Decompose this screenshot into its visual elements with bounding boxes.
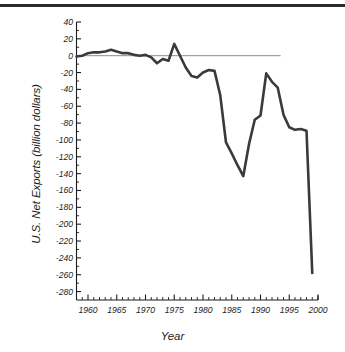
x-tick-label: 1975 [165, 305, 184, 315]
y-tick-label: -60 [61, 101, 74, 111]
y-tick-label: -20 [61, 68, 74, 78]
y-tick-label: -160 [56, 185, 73, 195]
y-tick-label: 40 [63, 17, 73, 27]
x-axis-title: Year [0, 330, 345, 342]
x-tick-label: 1985 [222, 305, 241, 315]
net-exports-figure: 40200-20-40-60-80-100-120-140-160-180-20… [0, 0, 345, 352]
y-tick-label: 20 [62, 34, 73, 44]
y-tick-label: 0 [68, 51, 73, 61]
y-tick-label: -80 [61, 118, 74, 128]
x-tick-label: 1970 [136, 305, 155, 315]
chart-plot-area: 40200-20-40-60-80-100-120-140-160-180-20… [0, 0, 345, 352]
x-tick-label: 1990 [251, 305, 270, 315]
x-tick-label: 2000 [307, 305, 327, 315]
x-tick-label: 1980 [193, 305, 212, 315]
x-tick-label: 1960 [78, 305, 97, 315]
y-tick-label: -280 [56, 287, 73, 297]
y-axis-title: U.S. Net Exports (billion dollars) [30, 44, 42, 284]
y-tick-label: -40 [61, 84, 74, 94]
y-tick-label: -180 [56, 202, 73, 212]
y-tick-label: -260 [56, 270, 73, 280]
series-line-us-net-exports [77, 44, 313, 273]
y-tick-label: -240 [56, 253, 73, 263]
y-tick-label: -140 [56, 169, 73, 179]
x-tick-label: 1965 [107, 305, 126, 315]
y-tick-label: -100 [56, 135, 73, 145]
y-tick-label: -220 [56, 236, 73, 246]
x-tick-label: 1995 [280, 305, 299, 315]
y-tick-label: -120 [56, 152, 73, 162]
y-tick-label: -200 [56, 219, 73, 229]
